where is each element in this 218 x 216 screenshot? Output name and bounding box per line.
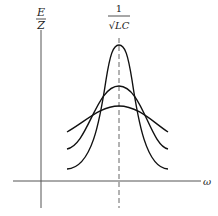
curve-medium	[67, 86, 168, 149]
resonance-numerator: 1	[116, 3, 122, 14]
y-label-e: E	[36, 6, 45, 19]
resonance-denominator: √LC	[109, 20, 130, 31]
x-label-omega: ω	[203, 176, 211, 187]
curve-broad	[67, 106, 168, 132]
curve-sharp	[67, 45, 168, 169]
y-label-z: Z	[36, 19, 45, 32]
resonance-diagram: E Z 1 √LC ω	[0, 0, 218, 216]
